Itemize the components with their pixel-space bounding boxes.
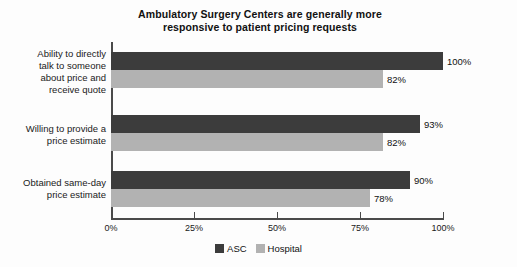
bar-value-asc-1: 93% bbox=[424, 119, 443, 130]
chart-title-line-1: Ambulatory Surgery Centers are generally… bbox=[60, 8, 460, 21]
bar-value-hospital-2: 78% bbox=[374, 193, 393, 204]
legend-entry-hospital: Hospital bbox=[256, 243, 302, 254]
y-axis-label-0-line-0: Ability to directly bbox=[1, 48, 106, 60]
bar-hospital-0 bbox=[111, 70, 383, 88]
bar-value-asc-2: 90% bbox=[414, 175, 433, 186]
y-axis-label-0-line-1: talk to someone bbox=[1, 60, 106, 72]
y-axis-label-1: Willing to provide a price estimate bbox=[1, 123, 106, 147]
bar-asc-0 bbox=[111, 52, 443, 70]
x-tick-label-2: 50% bbox=[268, 223, 286, 233]
x-tick-label-0: 0% bbox=[104, 223, 117, 233]
x-tick-mark-0 bbox=[111, 212, 112, 219]
x-tick-mark-4 bbox=[443, 212, 444, 219]
x-tick-label-4: 100% bbox=[431, 223, 454, 233]
y-axis-label-1-line-0: Willing to provide a bbox=[1, 123, 106, 135]
y-axis-label-2-line-1: price estimate bbox=[1, 189, 106, 201]
x-tick-mark-3 bbox=[360, 212, 361, 219]
chart-legend: ASC Hospital bbox=[0, 243, 517, 254]
legend-swatch-hospital-icon bbox=[256, 244, 265, 253]
y-axis-labels: Ability to directly talk to someone abou… bbox=[0, 42, 106, 218]
bar-hospital-1 bbox=[111, 133, 383, 151]
legend-label-asc: ASC bbox=[227, 243, 247, 254]
x-tick-label-3: 75% bbox=[351, 223, 369, 233]
plot-area: 0% 25% 50% 75% 100% 100% 82% 93% 82% 90%… bbox=[111, 42, 443, 218]
x-tick-mark-1 bbox=[194, 212, 195, 219]
x-tick-mark-2 bbox=[277, 212, 278, 219]
bar-value-hospital-1: 82% bbox=[387, 137, 406, 148]
y-axis-label-0: Ability to directly talk to someone abou… bbox=[1, 48, 106, 96]
y-axis-label-2-line-0: Obtained same-day bbox=[1, 177, 106, 189]
x-tick-label-1: 25% bbox=[185, 223, 203, 233]
y-axis-label-0-line-3: receive quote bbox=[1, 84, 106, 96]
legend-swatch-asc-icon bbox=[215, 244, 224, 253]
y-axis-label-0-line-2: about price and bbox=[1, 72, 106, 84]
legend-label-hospital: Hospital bbox=[268, 243, 302, 254]
y-axis-label-2: Obtained same-day price estimate bbox=[1, 177, 106, 201]
bar-value-asc-0: 100% bbox=[447, 56, 471, 67]
bar-asc-2 bbox=[111, 171, 410, 189]
legend-entry-asc: ASC bbox=[215, 243, 247, 254]
y-axis-label-1-line-1: price estimate bbox=[1, 135, 106, 147]
bar-asc-1 bbox=[111, 115, 420, 133]
chart-title: Ambulatory Surgery Centers are generally… bbox=[60, 8, 460, 34]
bar-chart: Ambulatory Surgery Centers are generally… bbox=[0, 0, 517, 267]
bar-value-hospital-0: 82% bbox=[387, 74, 406, 85]
bar-hospital-2 bbox=[111, 189, 370, 207]
chart-title-line-2: responsive to patient pricing requests bbox=[60, 21, 460, 34]
